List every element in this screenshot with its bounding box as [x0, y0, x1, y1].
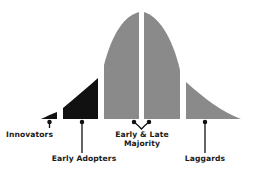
early-adopters-label: Early Adopters [48, 155, 120, 164]
early-adopters-segment [63, 78, 98, 119]
innovators-label: Innovators [6, 131, 52, 140]
early-majority-leader-dot [132, 120, 135, 123]
innovators-segment [41, 112, 57, 119]
laggards-leader-dot [203, 120, 206, 123]
early-majority-segment [104, 12, 139, 119]
majority-label-line2: Majority [112, 140, 172, 149]
early-adopters-leader-dot [80, 120, 83, 123]
late-majority-leader-dot [147, 120, 150, 123]
adoption-curve-diagram [0, 0, 254, 178]
majority-bracket [134, 122, 149, 129]
laggards-segment [186, 82, 241, 119]
innovators-leader-dot [48, 120, 51, 123]
laggards-label: Laggards [180, 155, 230, 164]
late-majority-segment [144, 12, 180, 119]
